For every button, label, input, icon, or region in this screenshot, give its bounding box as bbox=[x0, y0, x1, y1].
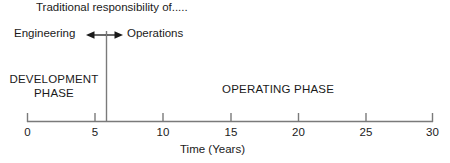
tick-label-10: 10 bbox=[148, 126, 178, 138]
tick-label-5: 5 bbox=[80, 126, 110, 138]
tick-label-0: 0 bbox=[13, 126, 43, 138]
axis-title-time: Time (Years) bbox=[180, 144, 245, 156]
timeline-graphics bbox=[0, 0, 450, 163]
right-arrow-icon bbox=[107, 31, 123, 38]
left-arrow-icon bbox=[86, 31, 106, 38]
tick-label-15: 15 bbox=[216, 126, 246, 138]
timeline-figure: Traditional responsibility of..... Engin… bbox=[0, 0, 450, 163]
tick-label-20: 20 bbox=[284, 126, 314, 138]
tick-label-30: 30 bbox=[418, 126, 448, 138]
axis-tick-group bbox=[28, 113, 433, 122]
tick-label-25: 25 bbox=[351, 126, 381, 138]
